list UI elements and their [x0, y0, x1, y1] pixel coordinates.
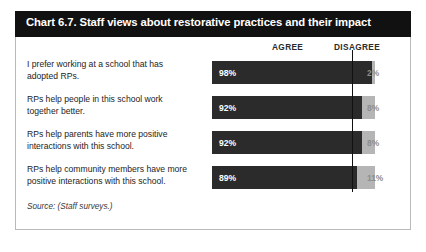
- chart-title-bar: Chart 6.7. Staff views about restorative…: [15, 11, 411, 37]
- row-label: RPs help people in this school work toge…: [27, 94, 192, 117]
- bar-track: 89%11%: [190, 166, 397, 189]
- bar-track: 92%8%: [190, 96, 397, 119]
- agree-value-label: 98%: [219, 68, 236, 78]
- column-header-agree: AGREE: [272, 42, 303, 52]
- stacked-bar: 89%: [212, 166, 375, 189]
- column-header-disagree: DISAGREE: [334, 42, 380, 52]
- agree-disagree-divider: [352, 50, 353, 192]
- agree-value-label: 89%: [219, 173, 236, 183]
- disagree-value-label: 8%: [367, 103, 397, 113]
- bar-segment-agree: 98%: [212, 61, 372, 84]
- stacked-bar: 98%: [212, 61, 375, 84]
- disagree-value-label: 11%: [367, 173, 397, 183]
- bar-track: 92%8%: [190, 131, 397, 154]
- source-note: Source: (Staff surveys.): [27, 202, 113, 211]
- bar-segment-agree: 92%: [212, 131, 362, 154]
- agree-value-label: 92%: [219, 103, 236, 113]
- chart-figure: Chart 6.7. Staff views about restorative…: [15, 11, 411, 230]
- row-label: RPs help community members have more pos…: [27, 164, 192, 187]
- disagree-value-label: 2%: [367, 68, 397, 78]
- bar-track: 98%2%: [190, 61, 397, 84]
- row-label: I prefer working at a school that has ad…: [27, 59, 192, 82]
- bar-segment-agree: 89%: [212, 166, 357, 189]
- bar-segment-agree: 92%: [212, 96, 362, 119]
- agree-value-label: 92%: [219, 138, 236, 148]
- stacked-bar: 92%: [212, 96, 375, 119]
- disagree-value-label: 8%: [367, 138, 397, 148]
- row-label: RPs help parents have more positive inte…: [27, 129, 192, 152]
- stacked-bar: 92%: [212, 131, 375, 154]
- chart-title: Chart 6.7. Staff views about restorative…: [26, 16, 371, 28]
